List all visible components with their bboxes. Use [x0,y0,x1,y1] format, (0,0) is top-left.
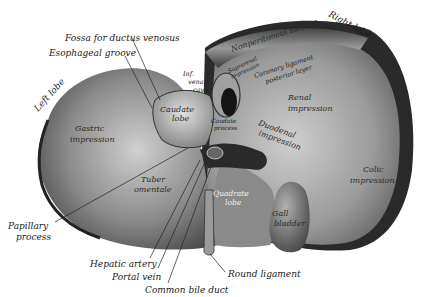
label-caudate-lobe-1: Caudate [160,105,194,114]
label-common-bile-duct: Common bile duct [145,285,229,295]
label-round-ligament: Round ligament [227,269,301,279]
label-papillary-process-1: Papillary [7,221,49,231]
label-caudate-process-1: Caudate [211,117,237,124]
label-papillary-process-2: process [16,232,51,242]
liver-illustration: Fossa for ductus venosus Esophageal groo… [0,0,421,297]
label-caudate-lobe-2: lobe [172,114,189,123]
label-tuber-2: omentale [134,185,172,194]
label-quadrate-1: Quadrate [213,189,249,198]
label-gastric-2: impression [70,135,115,144]
label-ivc-1: Inf. [182,70,194,78]
label-portal-vein: Portal vein [111,272,161,282]
round-ligament-shape [204,190,214,255]
label-renal-1: Renal [287,93,312,102]
label-renal-2: impression [288,104,333,113]
label-fossa-ductus-venosus: Fossa for ductus venosus [64,33,180,43]
label-ivc-2: vena [188,78,204,86]
label-caudate-process-2: process [214,124,237,132]
label-tuber-1: Tuber [141,175,166,184]
label-ivc-3: cava [193,86,208,94]
label-colic-2: impression [350,176,395,185]
label-hepatic-artery: Hepatic artery [89,259,158,269]
label-colic-1: Colic [363,165,384,174]
label-gall-1: Gall [272,209,289,218]
label-gastric-1: Gastric [75,124,105,133]
label-quadrate-2: lobe [225,198,242,207]
label-esophageal-groove: Esophageal groove [48,48,136,58]
label-gall-2: bladder [274,219,306,228]
